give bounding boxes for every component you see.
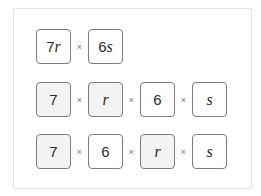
factor-box-6: 6: [88, 134, 123, 169]
factor-variable: r: [102, 91, 108, 109]
row-1-product: 7r × 6s: [36, 29, 123, 64]
times-sign: ×: [123, 147, 140, 157]
times-sign: ×: [71, 147, 88, 157]
term-box-6s: 6s: [88, 29, 123, 64]
row-2-expanded: 7 × r × 6 × s: [36, 82, 227, 117]
factor-variable: s: [206, 91, 212, 109]
factor-box-r: r: [140, 134, 175, 169]
factor-box-7: 7: [36, 82, 71, 117]
coefficient: 7: [46, 38, 54, 55]
coefficient: 6: [98, 38, 106, 55]
factor-box-r: r: [88, 82, 123, 117]
factor-value: 6: [101, 143, 109, 160]
row-3-rearranged: 7 × 6 × r × s: [36, 134, 227, 169]
factor-box-7: 7: [36, 134, 71, 169]
factor-box-s: s: [192, 134, 227, 169]
times-sign: ×: [175, 95, 192, 105]
factor-box-s: s: [192, 82, 227, 117]
times-sign: ×: [71, 42, 88, 52]
times-sign: ×: [71, 95, 88, 105]
factor-value: 7: [49, 91, 57, 108]
times-sign: ×: [175, 147, 192, 157]
variable: r: [55, 38, 61, 56]
variable: s: [107, 38, 113, 56]
factor-box-6: 6: [140, 82, 175, 117]
factor-value: 7: [49, 143, 57, 160]
times-sign: ×: [123, 95, 140, 105]
term-box-7r: 7r: [36, 29, 71, 64]
factor-variable: r: [154, 143, 160, 161]
factor-value: 6: [153, 91, 161, 108]
factor-variable: s: [206, 143, 212, 161]
